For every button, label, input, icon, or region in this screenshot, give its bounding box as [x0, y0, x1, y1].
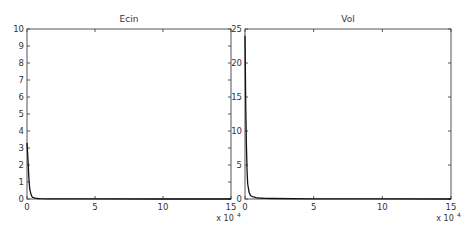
y-tick-label: 4: [19, 126, 24, 136]
y-tick-label: 10: [13, 24, 24, 34]
y-tick-label: 25: [231, 24, 242, 34]
y-tick-label: 2: [19, 160, 24, 170]
x-tick-label: 10: [377, 202, 388, 212]
vol-axes: Vol0510150510152025x 104: [231, 14, 461, 223]
y-tick-label: 1: [19, 177, 24, 187]
y-tick-label: 0: [237, 194, 242, 204]
y-tick-label: 3: [19, 143, 24, 153]
y-tick-label: 15: [231, 92, 242, 102]
x-tick-label: 10: [158, 202, 169, 212]
x-tick-label: 5: [311, 202, 316, 212]
y-tick-label: 6: [19, 92, 24, 102]
x-tick-label: 0: [242, 202, 247, 212]
x-tick-label: 0: [24, 202, 29, 212]
x-exponent-superscript: 4: [237, 211, 241, 218]
figure: Ecin051015012345678910x 104 Vol051015051…: [0, 0, 474, 233]
x-tick-label: 15: [226, 202, 237, 212]
x-tick-label: 15: [446, 202, 457, 212]
y-tick-label: 5: [19, 109, 24, 119]
axes-box: [27, 29, 231, 199]
axes-box: [245, 29, 451, 199]
y-tick-label: 20: [231, 58, 242, 68]
y-tick-label: 10: [231, 126, 242, 136]
x-tick-label: 5: [92, 202, 97, 212]
x-exponent-superscript: 4: [457, 211, 461, 218]
ecin-axes: Ecin051015012345678910x 104: [13, 14, 241, 223]
y-tick-label: 8: [19, 58, 24, 68]
chart-title: Vol: [341, 14, 354, 24]
y-tick-label: 9: [19, 41, 24, 51]
x-exponent-label: x 10: [216, 214, 233, 223]
y-tick-label: 0: [19, 194, 24, 204]
x-exponent-label: x 10: [436, 214, 453, 223]
y-tick-label: 7: [19, 75, 24, 85]
y-tick-label: 5: [237, 160, 242, 170]
chart-title: Ecin: [120, 14, 139, 24]
